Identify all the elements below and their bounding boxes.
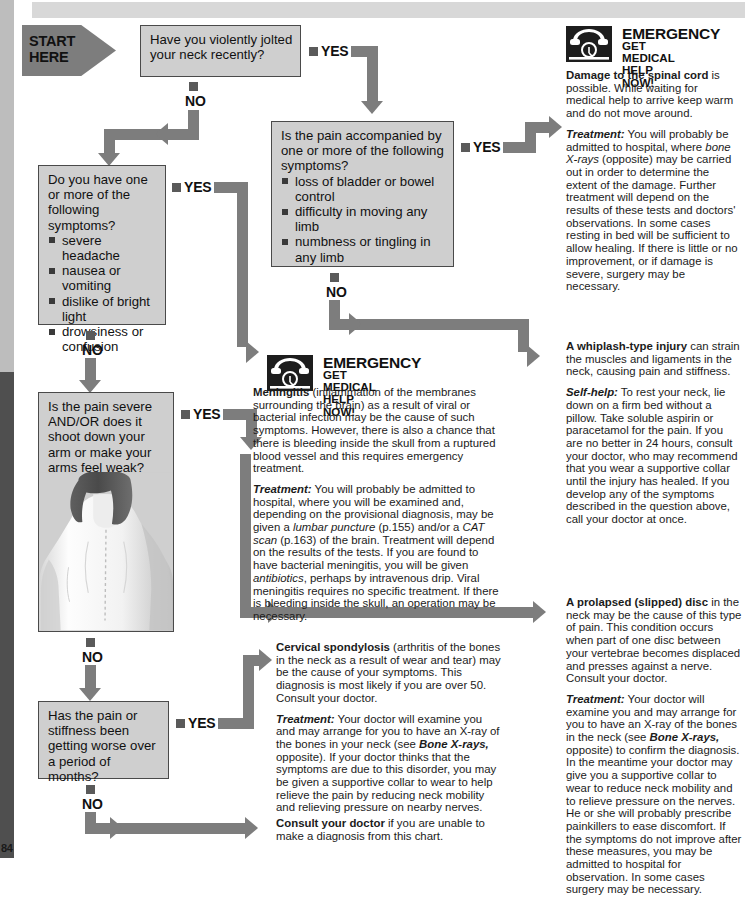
connector-q5-yes-v [243, 655, 254, 729]
question-box-getting-worse[interactable]: Has the pain or stiffness been getting w… [38, 701, 169, 779]
lumbar-puncture-italic: lumbar puncture [293, 521, 375, 533]
no-marker-q3 [86, 331, 95, 340]
connector-q1-no-h [104, 129, 199, 140]
treatment-lead: Treatment: [253, 483, 312, 495]
arrowhead-q5-yes [259, 649, 272, 671]
question-box-other-symptoms[interactable]: Do you have one or more of the following… [38, 165, 166, 325]
yes-label-q5: YES [188, 715, 215, 731]
paragraph-damage: Damage to the spinal cord is possible. W… [566, 69, 740, 120]
yes-marker-q3 [172, 183, 181, 192]
list-item: nausea or vomiting [48, 263, 158, 293]
no-marker-q4 [86, 638, 95, 647]
paragraph-whiplash: A whiplash-type injury can strain the mu… [566, 340, 742, 378]
connector-q1-yes-v [367, 46, 378, 103]
emergency-subtitle-line1: GET MEDICAL [622, 39, 675, 64]
advice-whiplash: A whiplash-type injury can strain the mu… [566, 340, 742, 534]
question-box-accompanying-symptoms[interactable]: Is the pain accompanied by one or more o… [271, 121, 454, 267]
yes-marker-q4 [181, 410, 190, 419]
paragraph-treatment: Treatment: You will probably be admitted… [566, 128, 740, 293]
no-marker-q5 [86, 785, 95, 794]
list-item: numbness or tingling in any limb [281, 234, 446, 264]
header-bar-underline [32, 18, 745, 22]
advice-prolapsed-disc: A prolapsed (slipped) disc in the neck m… [566, 596, 742, 899]
paragraph-treatment: Treatment: Your doctor will examine you … [276, 713, 502, 815]
emergency-body-spinal: Damage to the spinal cord is possible. W… [566, 69, 740, 301]
no-label-q4: NO [82, 649, 103, 665]
treatment-text-c: (p.163) of the brain. Treatment will dep… [253, 534, 494, 571]
paragraph-lead: A whiplash-type injury [566, 340, 687, 352]
list-item: dislike of bright light [48, 294, 158, 324]
yes-label-q2: YES [473, 139, 500, 155]
treatment-text-b: opposite) to confirm the diagnosis. In t… [566, 744, 741, 896]
paragraph-lead: Consult your doctor [276, 817, 385, 829]
list-item: severe headache [48, 233, 158, 263]
paragraph-consult: Consult your doctor if you are unable to… [276, 817, 514, 842]
connector-q4-yes-v2 [240, 454, 251, 618]
bone-xrays-italic: Bone X-rays, [419, 738, 489, 750]
paragraph-lead: Cervical spondylosis [276, 641, 390, 653]
yes-label-q4: YES [193, 406, 220, 422]
question-text: Is the pain severe AND/OR does it shoot … [48, 399, 166, 475]
yes-marker-q5 [176, 719, 185, 728]
start-here-line1: START [29, 33, 75, 49]
no-marker-q2 [330, 273, 339, 282]
paragraph-lead: A prolapsed (slipped) disc [566, 596, 708, 608]
no-label-q2: NO [326, 284, 347, 300]
symptom-list: severe headache nausea or vomiting disli… [48, 233, 158, 355]
arrowhead-q1-no-turn [155, 123, 168, 145]
treatment-lead: Treatment: [566, 693, 625, 705]
selfhelp-lead: Self-help: [566, 386, 618, 398]
paragraph-text: (inflammation of the membranes surroundi… [253, 386, 496, 474]
paragraph-selfhelp: Self-help: To rest your neck, lie down o… [566, 386, 742, 526]
advice-cervical-spondylosis: Cervical spondylosis (arthritis of the b… [276, 641, 502, 822]
treatment-text-b: (p.155) and/or a [375, 521, 462, 533]
no-marker-q1 [189, 82, 198, 91]
question-text: Have you violently jolted your neck rece… [150, 32, 293, 62]
list-item: difficulty in moving any limb [281, 204, 446, 234]
connector-q1-no-v2 [104, 129, 115, 155]
start-here-line2: HERE [29, 49, 69, 65]
question-box-jolted-neck[interactable]: Have you violently jolted your neck rece… [140, 25, 301, 77]
header-bar [32, 2, 745, 18]
arrowhead-q5-no [245, 817, 258, 839]
no-label-q1: NO [185, 93, 206, 109]
treatment-lead: Treatment: [566, 128, 625, 140]
arrowhead-q3-yes [246, 341, 259, 363]
yes-label-q3: YES [184, 179, 211, 195]
paragraph-lead: Damage to the spinal cord [566, 69, 708, 81]
yes-marker-q2 [461, 143, 470, 152]
arrowhead-q5-no-turn [110, 817, 123, 839]
page-number: 84 [1, 842, 13, 854]
arrowhead-q2-yes [549, 116, 562, 138]
list-item: loss of bladder or bowel control [281, 174, 446, 204]
yes-marker-q1 [309, 47, 318, 56]
start-here-pennant: START HERE [22, 25, 116, 76]
arrowhead-q1-yes [361, 101, 383, 114]
arrowhead-q4-yes [533, 601, 546, 623]
paragraph-lead: Meningitis [253, 386, 309, 398]
telephone-icon [566, 26, 612, 62]
list-item: drowsiness or confusion [48, 324, 158, 354]
symptom-list: loss of bladder or bowel control difficu… [281, 174, 446, 265]
advice-consult-doctor: Consult your doctor if you are unable to… [276, 817, 514, 850]
paragraph-text: in the neck may be the cause of this typ… [566, 596, 741, 684]
page-edge-bar-dark [0, 372, 14, 858]
treatment-text-b: (opposite) may be carried out in order t… [566, 153, 738, 292]
connector-q3-no-v [85, 358, 96, 382]
paragraph-spondylosis: Cervical spondylosis (arthritis of the b… [276, 641, 502, 705]
arrowhead-q2-no-turn [349, 313, 362, 335]
no-label-q5: NO [82, 796, 103, 812]
connector-q4-no-v [85, 665, 96, 690]
arrowhead-q4-no [79, 688, 101, 701]
paragraph-treatment: Treatment: You will probably be admitted… [253, 483, 502, 623]
paragraph-meningitis: Meningitis (inflammation of the membrane… [253, 386, 502, 475]
connector-q3-yes-v [237, 182, 248, 347]
woman-back-illustration [39, 472, 173, 631]
no-label-q3: NO [82, 342, 103, 358]
yes-label-q1: YES [321, 43, 348, 59]
question-text: Has the pain or stiffness been getting w… [48, 708, 161, 784]
connector-q2-yes-h2 [525, 122, 551, 133]
question-text: Is the pain accompanied by one or more o… [281, 128, 446, 174]
selfhelp-text: To rest your neck, lie down on a firm be… [566, 386, 738, 525]
paragraph-treatment: Treatment: Your doctor will examine you … [566, 693, 742, 896]
